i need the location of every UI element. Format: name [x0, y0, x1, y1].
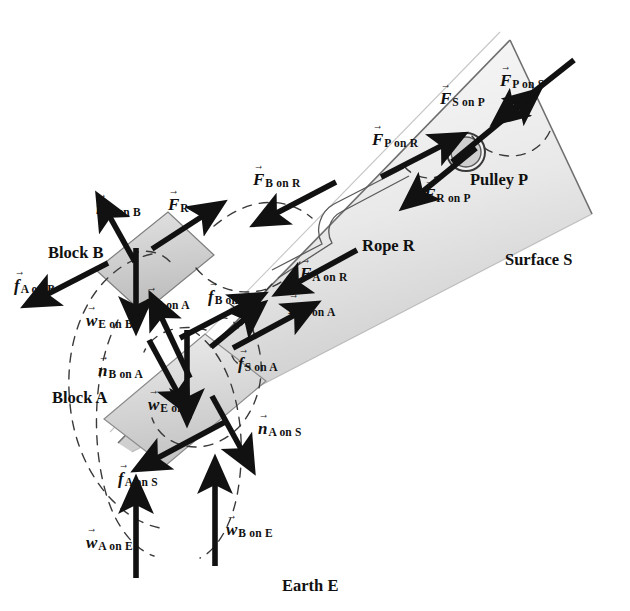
force-label-w-e-on-b-upper: wE on B [86, 312, 133, 331]
force-symbol: F [424, 185, 436, 204]
force-subscript: B on E [238, 527, 272, 539]
force-subscript: B on A [108, 368, 142, 380]
force-label-f-r-on-a: FR on A [288, 300, 335, 319]
force-symbol: n [258, 419, 268, 438]
force-label-n-a-on-b: nA on B [96, 200, 141, 219]
force-subscript: A on S [125, 476, 158, 488]
force-subscript: A on S [268, 426, 301, 438]
force-label-n-a-on-s: nA on S [258, 420, 302, 439]
force-label-f-s-on-p: FS on P [440, 90, 485, 109]
force-symbol: F [300, 264, 312, 283]
force-label-f-p-on-s: FP on S [500, 72, 544, 91]
force-symbol: f [208, 287, 215, 306]
force-label-f-r-on-b: FR on B [168, 196, 215, 215]
force-subscript: R on A [300, 306, 335, 318]
force-symbol: w [226, 520, 238, 539]
object-label-block-b: Block B [48, 245, 103, 262]
object-label-surface-s: Surface S [505, 252, 572, 269]
force-symbol: F [500, 71, 512, 90]
force-label-f-s-on-a: fS on A [238, 355, 278, 374]
force-subscript: R on B [180, 202, 215, 214]
force-subscript: A on B [21, 283, 55, 295]
object-label-pulley-p: Pulley P [470, 172, 528, 189]
force-symbol: F [440, 89, 452, 108]
force-symbol: n [96, 199, 106, 218]
force-symbol: n [98, 361, 108, 380]
force-subscript: P on R [384, 137, 418, 149]
force-symbol: F [253, 170, 265, 189]
force-symbol: n [146, 292, 156, 311]
force-symbol: f [14, 276, 21, 295]
force-subscript: P on S [512, 78, 544, 90]
force-subscript: S on A [245, 361, 278, 373]
force-symbol: F [168, 195, 180, 214]
force-subscript: B on A [215, 294, 249, 306]
force-symbol: f [238, 354, 245, 373]
force-diagram-canvas: Block B Block A Rope R Pulley P Surface … [0, 0, 630, 611]
force-subscript: B on R [265, 177, 300, 189]
force-subscript: A on E [98, 540, 132, 552]
force-label-w-b-on-e: wB on E [226, 521, 273, 540]
pair-arc-b-r-2 [214, 202, 312, 226]
force-label-f-b-on-a: fB on A [208, 288, 249, 307]
force-label-w-e-on-b-lower: wE on B [148, 396, 195, 415]
force-subscript: A on B [106, 206, 140, 218]
force-subscript: E on B [160, 402, 194, 414]
force-symbol: F [288, 299, 300, 318]
force-subscript: A on R [312, 271, 347, 283]
force-symbol: f [118, 469, 125, 488]
object-label-rope-r: Rope R [362, 238, 415, 255]
force-label-f-a-on-s: fA on S [118, 470, 158, 489]
force-symbol: w [148, 395, 160, 414]
force-subscript: E on B [98, 318, 132, 330]
force-symbol: F [372, 130, 384, 149]
force-subscript: S on P [452, 96, 485, 108]
force-label-n-s-on-a: nS on A [146, 293, 190, 312]
force-symbol: w [86, 533, 98, 552]
force-label-f-p-on-r: FP on R [372, 131, 418, 150]
force-label-f-a-on-r: FA on R [300, 265, 347, 284]
object-label-earth-e: Earth E [282, 578, 338, 595]
force-label-f-r-on-p: FR on P [424, 186, 471, 205]
force-label-f-b-on-r: FB on R [253, 171, 300, 190]
force-label-n-b-on-a: nB on A [98, 362, 143, 381]
force-symbol: w [86, 311, 98, 330]
force-label-f-a-on-b: fA on B [14, 277, 55, 296]
object-label-block-a: Block A [52, 390, 107, 407]
force-subscript: S on A [156, 299, 189, 311]
force-label-w-a-on-e: wA on E [86, 534, 133, 553]
force-subscript: R on P [436, 192, 470, 204]
